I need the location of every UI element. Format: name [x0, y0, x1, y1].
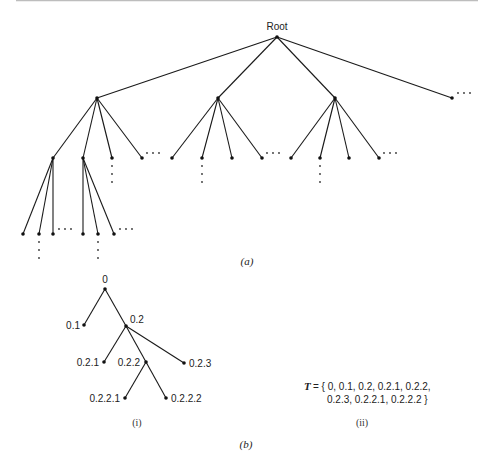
set-line-2: 0.2.3, 0.2.2.1, 0.2.2.2 }: [327, 394, 428, 405]
figure-b-node-labels: 00.10.20.2.10.2.20.2.30.2.2.10.2.2.2: [66, 274, 212, 404]
vertical-ellipsis: [97, 241, 99, 259]
set-symbol: T: [304, 380, 312, 392]
node-label: 0.2.1: [77, 357, 100, 368]
node-label: 0.2: [130, 314, 144, 325]
tree-a-node: [51, 232, 55, 236]
tree-a-node: [81, 232, 85, 236]
node-label: 0.2.2.1: [89, 393, 120, 404]
vertical-ellipsis: [319, 165, 321, 183]
tree-b-node: [82, 323, 86, 327]
set-notation: T = { 0, 0.1, 0.2, 0.2.1, 0.2.2, 0.2.3, …: [304, 380, 431, 405]
vertical-ellipsis: [38, 241, 40, 259]
tree-a-node: [347, 156, 351, 160]
tree-b-node: [164, 396, 168, 400]
tree-b-edge: [105, 289, 126, 326]
node-label: 0.2.3: [189, 358, 212, 369]
horizontal-ellipsis: [383, 152, 397, 154]
tree-a-node: [289, 156, 293, 160]
tree-a-edge: [277, 37, 335, 98]
tree-a-node: [81, 156, 85, 160]
tree-a-edge: [172, 98, 218, 158]
tree-a-edge: [83, 158, 114, 234]
tree-a-edge: [277, 37, 452, 98]
horizontal-ellipsis: [146, 152, 160, 154]
tree-a-node: [450, 96, 454, 100]
tree-a-edge: [39, 158, 53, 234]
tree-a-edge: [291, 98, 335, 158]
vertical-ellipsis: [201, 165, 203, 183]
tree-a-edge: [97, 98, 112, 158]
tree-a-edge: [320, 98, 335, 158]
tree-a-edge: [23, 158, 53, 234]
tree-b-node: [103, 287, 107, 291]
subfigure-i-caption: (i): [132, 417, 141, 429]
tree-a-node: [51, 156, 55, 160]
tree-b-node: [102, 360, 106, 364]
horizontal-ellipsis: [457, 92, 471, 94]
node-label: 0.2.2: [118, 357, 141, 368]
horizontal-ellipsis: [266, 152, 280, 154]
subfigure-ii-caption: (ii): [356, 417, 368, 429]
figure-a-nodes: [21, 35, 454, 236]
node-label: 0.2.2.2: [171, 393, 202, 404]
tree-a-node: [275, 35, 279, 39]
tree-a-node: [230, 156, 234, 160]
figure-b-edges: [84, 289, 184, 398]
horizontal-ellipsis: [58, 228, 72, 230]
root-label: Root: [266, 21, 287, 32]
figure-a-caption: (a): [241, 255, 254, 268]
tree-a-node: [333, 96, 337, 100]
figure-a-edges: [23, 37, 452, 234]
figure-a-infinite-tree: Root (a): [21, 21, 471, 268]
set-line-1: = { 0, 0.1, 0.2, 0.2.1, 0.2.2,: [313, 381, 431, 392]
tree-a-node: [112, 232, 116, 236]
tree-a-node: [377, 156, 381, 160]
tree-a-node: [95, 96, 99, 100]
tree-a-node: [96, 232, 100, 236]
tree-a-edge: [97, 98, 142, 158]
tree-b-node: [182, 361, 186, 365]
tree-a-edge: [202, 98, 218, 158]
tree-a-node: [170, 156, 174, 160]
tree-a-node: [216, 96, 220, 100]
node-label: 0.1: [66, 320, 80, 331]
tree-a-node: [21, 232, 25, 236]
tree-a-node: [37, 232, 41, 236]
tree-b-node: [123, 396, 127, 400]
tree-diagram-figure: Root (a) 00.10.20.2.10.2.20.2.30.2.2.10.…: [0, 0, 482, 462]
tree-a-node: [318, 156, 322, 160]
horizontal-ellipsis: [119, 228, 133, 230]
node-label: 0: [102, 274, 108, 285]
tree-a-node: [110, 156, 114, 160]
tree-a-edge: [97, 37, 277, 98]
vertical-ellipsis: [111, 165, 113, 183]
tree-a-node: [140, 156, 144, 160]
tree-b-node: [124, 324, 128, 328]
tree-a-node: [260, 156, 264, 160]
tree-a-edge: [83, 158, 98, 234]
figure-a-ellipses: [38, 92, 471, 259]
tree-a-edge: [218, 37, 277, 98]
figure-b-labeled-tree: 00.10.20.2.10.2.20.2.30.2.2.10.2.2.2 (i)…: [66, 274, 431, 451]
tree-a-node: [200, 156, 204, 160]
figure-b-caption: (b): [240, 438, 253, 451]
tree-b-node: [144, 360, 148, 364]
tree-b-edge: [84, 289, 105, 325]
tree-b-edge: [146, 362, 166, 398]
